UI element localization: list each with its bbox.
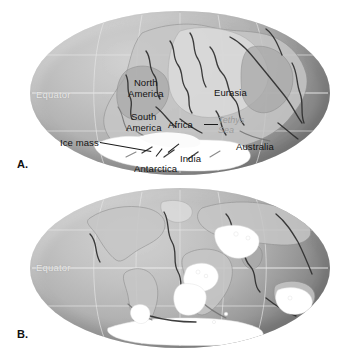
panel-letter-b: B. — [17, 328, 28, 340]
globe-pangaea — [30, 11, 330, 175]
panel-b: Equator B. — [0, 183, 350, 361]
label-antarctica: Antarctica — [134, 164, 177, 175]
label-south-america: South America — [126, 112, 162, 133]
equator-label-b: Equator — [36, 262, 71, 273]
leader-tethys-sea — [204, 124, 218, 125]
globe-a-graphic — [30, 11, 330, 175]
label-africa: Africa — [168, 120, 193, 131]
equator-label-a: Equator — [36, 89, 71, 100]
panel-letter-a: A. — [17, 158, 28, 170]
panel-a: Equator North America South America Afri… — [0, 0, 350, 185]
label-eurasia: Eurasia — [214, 88, 247, 99]
label-tethys-sea: Tethys Sea — [218, 115, 244, 135]
label-india: India — [180, 154, 201, 165]
globe-b-graphic — [30, 188, 330, 348]
label-north-america: North America — [128, 78, 164, 99]
label-australia: Australia — [236, 142, 274, 153]
globe-present-day — [30, 188, 330, 348]
label-ice-mass: Ice mass — [60, 138, 99, 149]
